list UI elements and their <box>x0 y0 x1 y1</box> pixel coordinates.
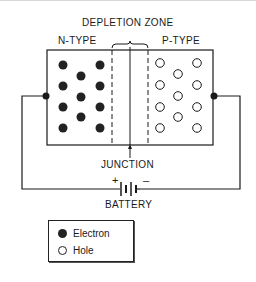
p-type-label: P-TYPE <box>162 35 200 46</box>
legend-label-hole: Hole <box>73 245 94 256</box>
hole-icon <box>156 124 165 133</box>
battery-icon <box>121 182 140 196</box>
electron-icon <box>58 229 67 238</box>
legend-item-hole: Hole <box>49 245 94 256</box>
electron-icon <box>59 61 68 70</box>
hole-icon <box>193 59 202 68</box>
hole-icon <box>174 92 183 101</box>
hole-icon <box>193 124 202 133</box>
battery-plus-sign: + <box>112 174 119 186</box>
hole-icon <box>58 246 67 255</box>
electron-icon <box>77 93 86 102</box>
electron-icon <box>59 103 68 112</box>
electron-icon <box>96 103 105 112</box>
depletion-brace-icon <box>112 41 148 48</box>
hole-icon <box>174 70 183 79</box>
hole-icon <box>156 81 165 90</box>
electron-icon <box>77 113 86 122</box>
hole-icon <box>156 103 165 112</box>
legend: Electron Hole <box>48 220 134 262</box>
n-type-label: N-TYPE <box>58 35 96 46</box>
hole-icon <box>174 113 183 122</box>
hole-icon <box>193 103 202 112</box>
electron-icon <box>59 124 68 133</box>
electron-icon <box>77 72 86 81</box>
electron-icon <box>59 82 68 91</box>
battery-label: BATTERY <box>105 199 152 210</box>
electron-icon <box>96 124 105 133</box>
hole-icon <box>193 81 202 90</box>
legend-item-electron: Electron <box>49 228 110 239</box>
battery-minus-sign: – <box>143 174 149 186</box>
depletion-zone-label: DEPLETION ZONE <box>82 17 173 28</box>
junction-label: JUNCTION <box>101 159 154 170</box>
legend-label-electron: Electron <box>73 228 110 239</box>
electron-icon <box>96 82 105 91</box>
electron-icon <box>96 61 105 70</box>
hole-icon <box>156 59 165 68</box>
